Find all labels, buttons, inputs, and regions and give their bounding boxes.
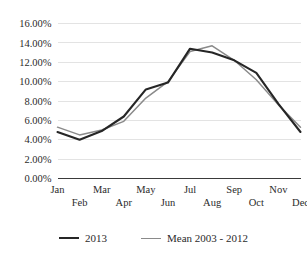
- y-axis-tick-label: 8.00%: [24, 96, 51, 107]
- x-axis-tick-label: Nov: [269, 184, 288, 195]
- x-axis-tick-label: Jul: [184, 184, 196, 195]
- x-axis-tick-labels: JanFebMarAprMayJunJulAugSepOctNovDec: [51, 184, 308, 208]
- x-axis-tick-label: Dec: [292, 197, 307, 208]
- x-axis-tick-label: Jun: [161, 197, 176, 208]
- line-chart: 0.00%2.00%4.00%6.00%8.00%10.00%12.00%14.…: [0, 0, 307, 255]
- x-axis-tick-label: Aug: [203, 197, 222, 208]
- x-axis-tick-label: Oct: [249, 197, 264, 208]
- y-axis-tick-labels: 0.00%2.00%4.00%6.00%8.00%10.00%12.00%14.…: [19, 18, 52, 184]
- y-axis-tick-label: 6.00%: [24, 115, 51, 126]
- y-axis-tick-label: 12.00%: [19, 57, 52, 68]
- legend-entry-1[interactable]: 2013: [59, 232, 107, 244]
- x-axis-tick-label: Jan: [51, 184, 66, 195]
- y-axis-tick-label: 10.00%: [19, 76, 52, 87]
- y-axis-tick-label: 0.00%: [24, 173, 51, 184]
- chart-svg: 0.00%2.00%4.00%6.00%8.00%10.00%12.00%14.…: [0, 0, 307, 220]
- series-layer: [58, 46, 301, 140]
- legend-label: Mean 2003 - 2012: [167, 232, 248, 244]
- chart-legend: 2013Mean 2003 - 2012: [0, 226, 307, 250]
- x-axis-tick-label: Mar: [93, 184, 111, 195]
- legend-entry-2[interactable]: Mean 2003 - 2012: [141, 232, 248, 244]
- x-axis-tick-label: Apr: [116, 197, 133, 208]
- legend-label: 2013: [85, 232, 107, 244]
- legend-swatch-icon: [59, 237, 79, 239]
- y-axis-tick-label: 4.00%: [24, 134, 51, 145]
- legend-swatch-icon: [141, 238, 161, 239]
- x-axis-tick-label: May: [136, 184, 156, 195]
- plot-area: 0.00%2.00%4.00%6.00%8.00%10.00%12.00%14.…: [0, 0, 307, 220]
- y-axis-tick-label: 2.00%: [24, 154, 51, 165]
- x-axis-tick-label: Sep: [226, 184, 242, 195]
- x-axis-tick-label: Feb: [72, 197, 88, 208]
- y-axis-tick-label: 14.00%: [19, 38, 52, 49]
- y-axis-tick-label: 16.00%: [19, 18, 52, 29]
- gridlines: [58, 24, 301, 160]
- series-line-mean-2003-2012: [58, 46, 301, 135]
